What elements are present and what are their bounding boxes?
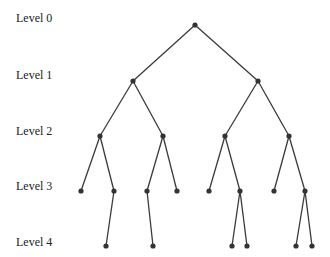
tree-edge xyxy=(81,136,100,191)
tree-node xyxy=(229,243,234,248)
tree-edge xyxy=(163,136,177,191)
tree-node xyxy=(222,133,227,138)
tree-node xyxy=(244,243,249,248)
tree-node xyxy=(144,188,149,193)
tree-edge xyxy=(240,191,247,246)
tree-edge xyxy=(133,81,163,136)
tree-diagram: Level 0 Level 1 Level 2 Level 3 Level 4 xyxy=(0,0,330,257)
tree-node xyxy=(271,188,276,193)
tree-edge xyxy=(225,81,258,136)
tree-graph xyxy=(0,0,330,257)
tree-node xyxy=(237,188,242,193)
tree-edge xyxy=(147,191,153,246)
tree-edge xyxy=(100,81,133,136)
tree-node xyxy=(130,78,135,83)
tree-node xyxy=(150,243,155,248)
tree-node xyxy=(192,22,197,27)
tree-node xyxy=(309,243,314,248)
tree-node xyxy=(293,243,298,248)
tree-node xyxy=(286,133,291,138)
tree-edge xyxy=(305,191,312,246)
tree-node xyxy=(111,188,116,193)
tree-edge xyxy=(258,81,289,136)
tree-edge xyxy=(133,25,195,81)
tree-edge xyxy=(274,136,289,191)
tree-edge xyxy=(225,136,240,191)
tree-node xyxy=(103,243,108,248)
tree-node xyxy=(174,188,179,193)
tree-node xyxy=(255,78,260,83)
tree-edge xyxy=(289,136,305,191)
tree-edge xyxy=(106,191,114,246)
tree-node xyxy=(302,188,307,193)
tree-node xyxy=(97,133,102,138)
tree-edge xyxy=(232,191,240,246)
tree-edge xyxy=(147,136,163,191)
tree-edge xyxy=(209,136,225,191)
tree-edge xyxy=(296,191,305,246)
tree-edge xyxy=(195,25,258,81)
tree-node xyxy=(206,188,211,193)
tree-edge xyxy=(100,136,114,191)
tree-node xyxy=(160,133,165,138)
tree-node xyxy=(78,188,83,193)
